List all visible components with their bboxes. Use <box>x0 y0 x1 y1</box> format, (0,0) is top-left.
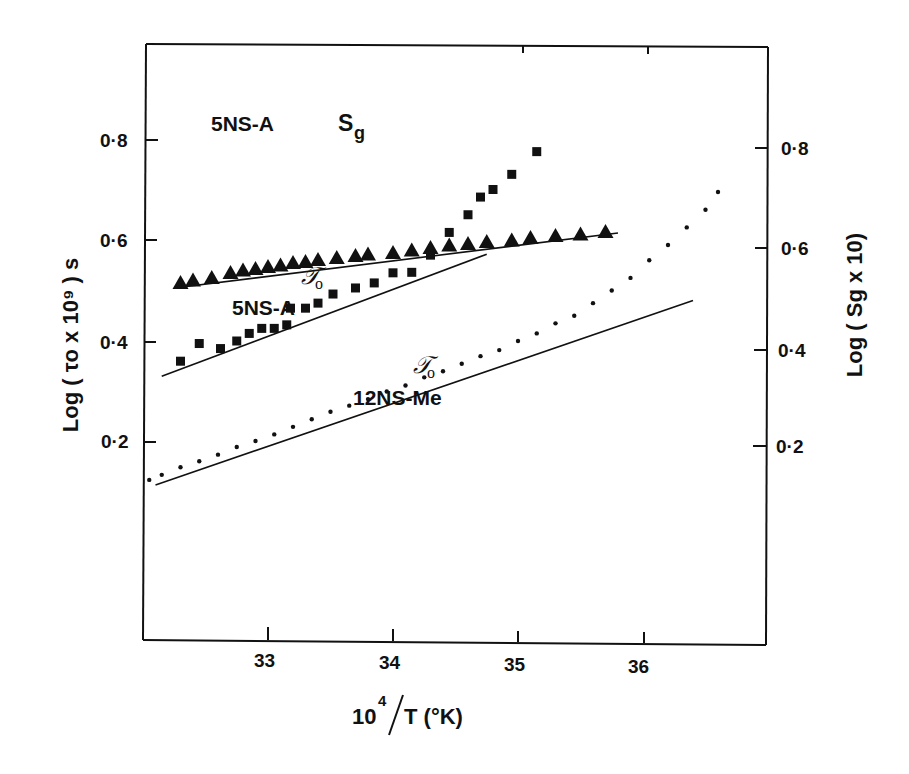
triangle-marker <box>223 265 239 279</box>
square-marker <box>216 344 225 353</box>
annotation-sg-symbol: S <box>338 110 353 136</box>
dot-marker <box>703 208 707 212</box>
y-right-axis-title-text: Log ( Sg x 10) <box>842 233 867 377</box>
y-right-axis-title: Log ( Sg x 10) <box>842 233 867 377</box>
dot-marker <box>235 445 239 449</box>
dot-marker <box>553 321 557 325</box>
triangle-marker <box>385 245 401 259</box>
square-marker <box>426 251 435 260</box>
annotation-tau-symbol: 𝒯 <box>301 263 327 289</box>
x-axis-title-base: 10 <box>352 704 376 729</box>
y-right-tick-0.2: 0·2 <box>776 436 803 457</box>
dot-marker <box>347 403 351 407</box>
annotation-5nsa-sg-name: 5NS-A <box>211 112 274 135</box>
y-left-tick-0.4: 0·4 <box>100 332 128 353</box>
y-left-tick-0.6: 0·6 <box>100 230 127 251</box>
triangle-marker <box>273 258 289 272</box>
annotation-12nsme-label: 12NS-Me <box>353 386 442 409</box>
x-tick-33: 33 <box>254 650 275 671</box>
square-marker <box>176 357 185 366</box>
dot-marker <box>628 276 632 280</box>
dot-marker <box>197 459 201 463</box>
annotation-12nsme-tau: 𝒯 o 12NS-Me <box>353 352 442 409</box>
dot-marker <box>160 473 164 477</box>
dot-marker <box>253 439 257 443</box>
dot-marker <box>310 417 314 421</box>
triangle-marker <box>204 270 220 284</box>
y-right-tick-0.8: 0·8 <box>781 138 808 159</box>
x-tick-34: 34 <box>379 652 401 673</box>
square-marker <box>282 320 291 329</box>
y-left-tick-0.8: 0·8 <box>100 130 127 151</box>
series-12ns-me-o <box>147 190 720 482</box>
dot-marker <box>716 190 720 194</box>
square-marker <box>476 193 485 202</box>
triangle-marker <box>360 247 376 261</box>
square-marker <box>445 228 454 237</box>
square-marker <box>195 339 204 348</box>
dot-marker <box>591 301 595 305</box>
x-axis-title-unit: T (°K) <box>404 704 463 729</box>
annotation-5nsa-label: 5NS-A <box>232 296 295 319</box>
annotation-sg-subscript: g <box>354 123 365 143</box>
triangle-marker <box>479 234 495 248</box>
triangle-marker <box>185 273 201 287</box>
dot-marker <box>272 432 276 436</box>
triangle-marker <box>504 233 520 247</box>
annotation-5nsa-sg: 5NS-A S g <box>211 110 365 143</box>
dot-marker <box>441 369 445 373</box>
dot-marker <box>478 354 482 358</box>
y-left-axis-title-text: Log ( τo x 10⁹ ) s <box>58 258 83 432</box>
y-left-tick-0.2: 0·2 <box>101 431 128 452</box>
square-marker <box>351 283 360 292</box>
dot-marker <box>291 425 295 429</box>
triangle-marker <box>329 250 345 264</box>
dot-marker <box>216 452 220 456</box>
square-marker <box>464 210 473 219</box>
square-marker <box>232 337 241 346</box>
annotation-tau-symbol-2: 𝒯 <box>413 352 439 378</box>
square-marker <box>270 324 279 333</box>
triangle-marker <box>441 238 457 252</box>
x-tick-35: 35 <box>504 654 526 675</box>
square-marker <box>314 299 323 308</box>
right-y-ticks <box>753 148 768 446</box>
dot-marker <box>497 348 501 352</box>
x-tick-36: 36 <box>628 656 649 677</box>
dot-marker <box>572 314 576 318</box>
dot-marker <box>647 258 651 262</box>
triangle-marker <box>523 230 539 244</box>
dot-marker <box>685 225 689 229</box>
dot-marker <box>535 331 539 335</box>
x-axis-title-exponent: 4 <box>378 692 387 709</box>
y-right-tick-0.4: 0·4 <box>778 340 806 361</box>
square-marker <box>370 278 379 287</box>
square-marker <box>329 290 338 299</box>
annotation-tau-subscript-2: o <box>427 364 435 381</box>
dot-marker <box>666 243 670 247</box>
square-marker <box>257 324 266 333</box>
x-axis-title: 10 4 T (°K) <box>352 692 463 735</box>
square-marker <box>532 147 541 156</box>
dot-marker <box>610 288 614 292</box>
square-marker <box>489 185 498 194</box>
square-marker <box>389 268 398 277</box>
triangle-marker <box>404 243 420 257</box>
square-marker <box>245 329 254 338</box>
triangle-marker <box>573 227 589 241</box>
square-marker <box>507 170 516 179</box>
chart-canvas: 0·8 0·6 0·4 0·2 0·8 0·6 0·4 0·2 33 34 35… <box>0 0 909 774</box>
dot-marker <box>460 362 464 366</box>
x-tick-labels: 33 34 35 36 <box>254 650 649 677</box>
square-marker <box>301 304 310 313</box>
y-left-axis-title: Log ( τo x 10⁹ ) s <box>58 258 83 432</box>
dot-marker <box>178 465 182 469</box>
triangle-marker <box>173 275 189 289</box>
right-y-tick-labels: 0·8 0·6 0·4 0·2 <box>776 138 808 457</box>
triangle-marker <box>548 228 564 242</box>
dot-marker <box>328 410 332 414</box>
dot-marker <box>516 339 520 343</box>
triangle-marker <box>598 224 614 238</box>
y-right-tick-0.6: 0·6 <box>781 238 808 259</box>
triangle-marker <box>460 236 476 250</box>
